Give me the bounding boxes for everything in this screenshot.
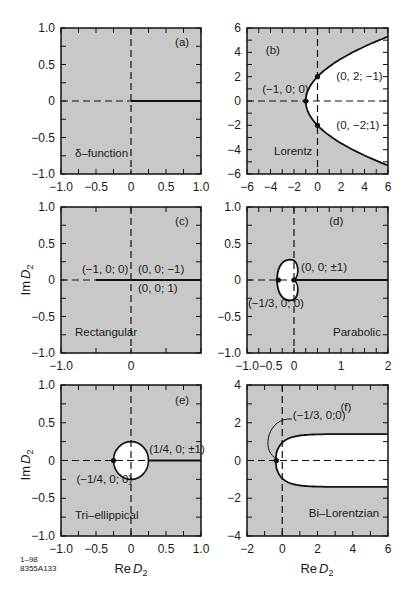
x-tick-label: −2 [287, 180, 301, 194]
x-tick-label: 0 [128, 180, 135, 194]
x-tick-label: −0.5 [84, 542, 108, 556]
critical-point [291, 277, 296, 282]
y-tick-label: 1.0 [224, 200, 241, 214]
y-tick-label: −6 [227, 167, 241, 181]
y-tick-label: 0.5 [38, 237, 55, 251]
x-tick-label: 0 [291, 359, 298, 373]
x-tick-label: 2 [314, 542, 321, 556]
y-tick-label: 2 [234, 416, 241, 430]
x-tick-label: 0 [128, 542, 135, 556]
x-tick-label: 1.0 [193, 180, 210, 194]
x-tick-label: −6 [240, 180, 254, 194]
point-annotation: (0, −2;1) [336, 119, 379, 131]
x-tick-label: 0.5 [158, 542, 175, 556]
distribution-name: Lorentz [274, 145, 313, 157]
y-axis-title: ImD2 [18, 265, 35, 296]
distribution-name: δ–function [75, 147, 128, 159]
y-tick-label: 6 [234, 21, 241, 35]
x-tick-label: 4 [349, 542, 356, 556]
critical-point [303, 98, 308, 103]
point-annotation: (−1, 0; 0) [262, 83, 309, 95]
y-tick-label: 0 [234, 273, 241, 287]
point-annotation: (1/4, 0; ±1) [149, 443, 205, 455]
y-tick-label: 1.0 [38, 21, 55, 35]
panel-a: −1.0−0.500.51.01.00.50−0.5−1.0(a)δ–funct… [31, 21, 209, 194]
y-axis-title: ImD2 [18, 450, 35, 481]
point-annotation: (−1/3, 0;0) [293, 409, 346, 421]
x-tick-label: −1.0 [49, 180, 73, 194]
y-tick-label: −2 [227, 118, 241, 132]
y-tick-label: 0.5 [38, 416, 55, 430]
critical-point [111, 458, 116, 463]
panel-f: −20246420−2−4(f)Bi–Lorentzian(−1/3, 0;0) [227, 378, 393, 556]
y-tick-label: −0.5 [31, 131, 55, 145]
y-tick-label: −4 [227, 143, 241, 157]
distribution-name: Tri–ellippical [75, 509, 139, 521]
figure-stability-diagrams: −1.0−0.500.51.01.00.50−0.5−1.0(a)δ–funct… [0, 0, 411, 592]
x-tick-label: 6 [385, 180, 392, 194]
x-tick-label: −1.0 [235, 359, 259, 373]
critical-point [274, 458, 279, 463]
x-tick-label: −2 [240, 542, 254, 556]
y-tick-label: 4 [234, 378, 241, 392]
panel-letter: (d) [329, 215, 343, 227]
y-tick-label: −4 [227, 529, 241, 543]
y-tick-label: −1.0 [31, 346, 55, 360]
x-tick-label: 1.0 [193, 542, 210, 556]
panel-e: −1.0−0.500.51.01.00.50−0.5−1.0(e)Tri–ell… [31, 378, 209, 556]
point-annotation: (0, 0; −1) [138, 263, 185, 275]
point-annotation: (0, 2; −1) [336, 70, 383, 82]
y-tick-label: 4 [234, 45, 241, 59]
point-annotation: (−1/3, 0; 0) [248, 297, 304, 309]
panel-c: −1.001.00.50−0.5−1.0(c)Rectangular(−1, 0… [31, 200, 201, 373]
y-tick-label: 1.0 [38, 200, 55, 214]
panel-b: −6−4−202466420−2−4−6(b)Lorentz(0, 2; −1)… [227, 21, 411, 194]
figure-id-date: 1–98 [20, 555, 38, 564]
critical-point [315, 123, 320, 128]
x-axis-title: ReD2 [114, 561, 147, 578]
y-tick-label: 0 [48, 94, 55, 108]
panel-letter: (e) [175, 394, 189, 406]
x-tick-label: −4 [264, 180, 278, 194]
x-tick-label: 0 [279, 542, 286, 556]
x-tick-label: 6 [385, 542, 392, 556]
y-tick-label: 1.0 [38, 378, 55, 392]
y-tick-label: 0 [234, 454, 241, 468]
panel-letter: (a) [175, 36, 189, 48]
y-tick-label: 0 [48, 454, 55, 468]
x-tick-label: 4 [361, 180, 368, 194]
y-tick-label: −1.0 [217, 346, 241, 360]
x-tick-label: 0.5 [158, 180, 175, 194]
distribution-name: Bi–Lorentzian [309, 507, 379, 519]
x-tick-label: 1 [338, 359, 345, 373]
x-tick-label: −1.0 [49, 359, 73, 373]
y-tick-label: −0.5 [31, 310, 55, 324]
panel-letter: (b) [266, 44, 280, 56]
y-tick-label: −0.5 [31, 491, 55, 505]
panel-d: −1.0−0.50121.00.50−0.5−1.0(d)Parabolic(0… [217, 200, 391, 373]
x-tick-label: 2 [385, 359, 392, 373]
y-tick-label: 0.5 [224, 237, 241, 251]
point-annotation: (−1/4, 0; 0) [76, 473, 132, 485]
point-annotation: (0, 0; ±1) [301, 261, 347, 273]
x-tick-label: −0.5 [84, 180, 108, 194]
x-tick-label: −1.0 [49, 542, 73, 556]
y-tick-label: 0.5 [38, 58, 55, 72]
x-tick-label: −0.5 [259, 359, 283, 373]
distribution-name: Rectangular [75, 326, 137, 338]
y-tick-label: 0 [234, 94, 241, 108]
point-annotation: (0, 0; 1) [138, 282, 178, 294]
critical-point [315, 74, 320, 79]
panel-letter: (c) [175, 215, 189, 227]
y-tick-label: −0.5 [217, 310, 241, 324]
y-tick-label: −1.0 [31, 529, 55, 543]
y-tick-label: −2 [227, 491, 241, 505]
x-tick-label: 2 [338, 180, 345, 194]
x-tick-label: 0 [128, 359, 135, 373]
y-tick-label: 2 [234, 70, 241, 84]
point-annotation: (−1, 0; 0) [82, 263, 129, 275]
y-tick-label: −1.0 [31, 167, 55, 181]
distribution-name: Parabolic [333, 326, 381, 338]
critical-point [276, 277, 281, 282]
y-tick-label: 0 [48, 273, 55, 287]
